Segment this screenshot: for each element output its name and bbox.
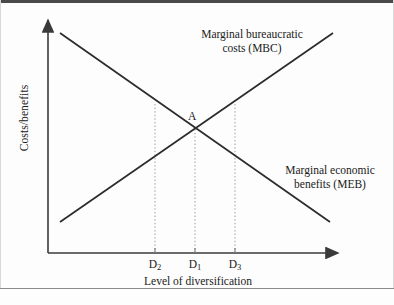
curve-label-meb: Marginal economic benefits (MEB) — [268, 163, 392, 191]
x-tick-label-d3-base: D — [229, 258, 237, 270]
equilibrium-point-label-a: A — [188, 110, 196, 122]
chart-figure: Costs/benefits Level of diversification … — [0, 0, 394, 305]
x-tick-label-d1: D1 — [180, 258, 210, 270]
curve-label-mbc-line2: costs (MBC) — [186, 41, 318, 55]
curve-label-meb-line1: Marginal economic — [268, 163, 392, 177]
x-tick-label-d2-base: D — [149, 258, 157, 270]
x-tick-label-d1-base: D — [189, 258, 197, 270]
x-tick-label-d3: D3 — [220, 258, 250, 270]
x-tick-label-d3-sub: 3 — [237, 262, 241, 272]
x-tick-label-d2-sub: 2 — [157, 262, 161, 272]
y-axis-label: Costs/benefits — [18, 58, 30, 178]
x-tick-label-d1-sub: 1 — [197, 262, 201, 272]
curve-label-meb-line2: benefits (MEB) — [268, 177, 392, 191]
curve-label-mbc-line1: Marginal bureaucratic — [186, 27, 318, 41]
x-tick-label-d2: D2 — [140, 258, 170, 270]
curve-label-mbc: Marginal bureaucratic costs (MBC) — [186, 27, 318, 55]
x-axis-label: Level of diversification — [48, 275, 348, 287]
